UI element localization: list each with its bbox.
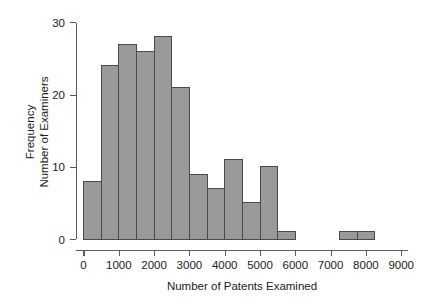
histogram-bar xyxy=(278,232,296,239)
histogram-bar xyxy=(357,232,375,239)
y-axis-title-line-2: Number of Examiners xyxy=(38,76,50,187)
x-tick-label: 5000 xyxy=(247,259,273,271)
x-tick-label: 4000 xyxy=(212,259,238,271)
x-tick-label: 7000 xyxy=(318,259,344,271)
histogram-bar xyxy=(119,44,137,239)
x-axis-title: Number of Patents Examined xyxy=(167,280,317,292)
histogram-bar xyxy=(154,37,172,239)
histogram-bar xyxy=(136,51,154,239)
histogram-figure: 0102030 01000200030004000500060007000800… xyxy=(0,0,441,305)
y-tick-label: 0 xyxy=(59,234,65,246)
y-tick-label: 10 xyxy=(52,161,65,173)
histogram-bar xyxy=(172,87,190,239)
histogram-bar xyxy=(189,174,207,239)
x-tick-label: 8000 xyxy=(353,259,379,271)
histogram-bar xyxy=(225,160,243,239)
histogram-bar xyxy=(339,232,357,239)
histogram-bar xyxy=(84,181,102,239)
histogram-svg: 0102030 01000200030004000500060007000800… xyxy=(0,0,441,305)
x-tick-label: 9000 xyxy=(388,259,414,271)
histogram-bar xyxy=(242,203,260,239)
x-tick-label: 1000 xyxy=(106,259,132,271)
x-tick-label: 2000 xyxy=(141,259,167,271)
y-axis-title-line-1: Frequency xyxy=(24,105,36,160)
x-tick-label: 0 xyxy=(80,259,86,271)
y-tick-label: 20 xyxy=(52,89,65,101)
x-tick-label: 6000 xyxy=(283,259,309,271)
y-tick-label: 30 xyxy=(52,17,65,29)
histogram-bar xyxy=(101,66,119,239)
histogram-bar xyxy=(207,188,225,239)
x-tick-label: 3000 xyxy=(177,259,203,271)
histogram-bar xyxy=(260,167,278,239)
